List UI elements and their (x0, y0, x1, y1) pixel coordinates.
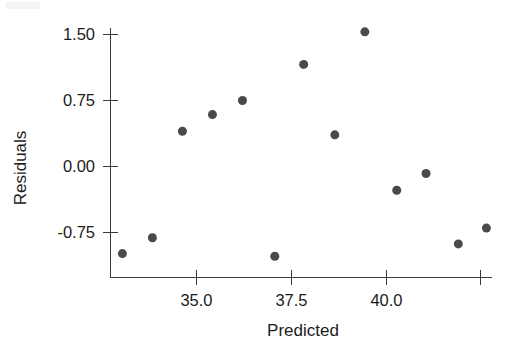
scan-artifact (6, 2, 40, 9)
data-point (360, 27, 369, 36)
y-tick-label-1.50: 1.50 (63, 25, 95, 43)
data-point (270, 252, 279, 261)
y-axis-title: Residuals (11, 131, 30, 206)
data-point (178, 127, 187, 136)
data-point (148, 233, 157, 242)
residual-plot-figure: 1.50 0.75 0.00 -0.75 35.0 37.5 40.0 Pred… (0, 0, 506, 350)
data-point (208, 110, 217, 119)
y-tick-label--0.75: -0.75 (57, 223, 95, 241)
data-point (118, 249, 127, 258)
x-axis-title: Predicted (267, 321, 339, 340)
x-tick-label-37.5: 37.5 (275, 291, 307, 309)
data-point (454, 239, 463, 248)
x-tick-label-35.0: 35.0 (180, 291, 212, 309)
y-tick-label-0.00: 0.00 (63, 157, 95, 175)
scatter-plot-canvas: 1.50 0.75 0.00 -0.75 35.0 37.5 40.0 Pred… (0, 0, 506, 350)
data-point (482, 224, 491, 233)
y-tick-label-0.75: 0.75 (63, 91, 95, 109)
data-point (330, 130, 339, 139)
data-point (392, 186, 401, 195)
data-point (299, 60, 308, 69)
data-point (238, 96, 247, 105)
data-point (422, 169, 431, 178)
x-tick-label-40.0: 40.0 (370, 291, 402, 309)
